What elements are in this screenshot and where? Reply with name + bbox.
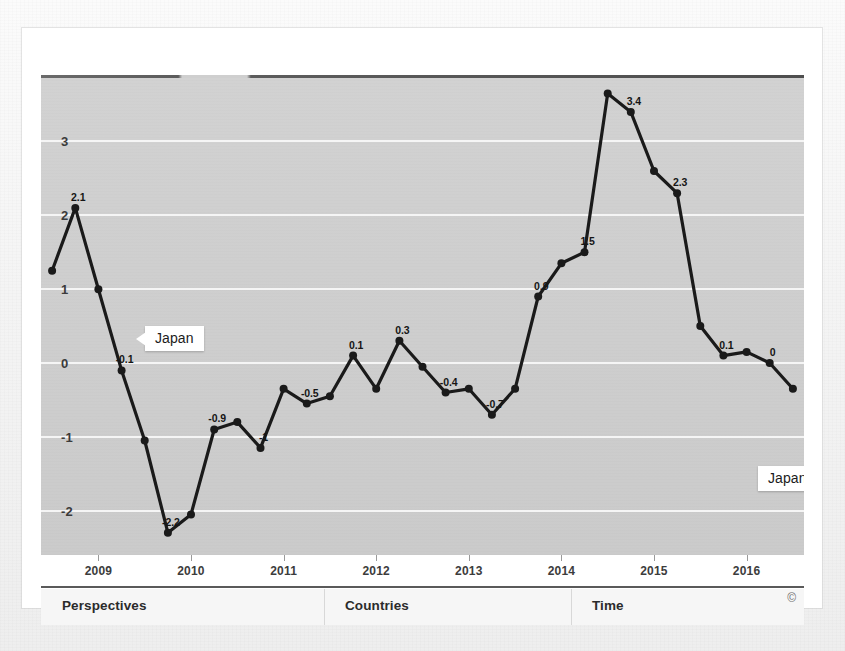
- bottom-toolbar[interactable]: Perspectives Countries Time ©: [41, 589, 804, 625]
- x-tick: [747, 555, 748, 561]
- chart-plot-area[interactable]: 2.1-0.1-2.2-0.9-1-0.50.10.3-0.4-0.70.91.…: [41, 75, 804, 555]
- data-point[interactable]: [257, 444, 265, 452]
- data-point[interactable]: [349, 352, 357, 360]
- x-tick-label: 2014: [548, 564, 576, 578]
- x-tick-label: 2010: [177, 564, 205, 578]
- series-callout-2[interactable]: Japan: [758, 466, 804, 491]
- data-point-label: 0.3: [395, 324, 409, 336]
- data-point[interactable]: [164, 529, 172, 537]
- x-axis-rule: [41, 586, 804, 588]
- x-tick-label: 2009: [85, 564, 113, 578]
- plot-top-rule: [41, 75, 804, 78]
- data-point[interactable]: [94, 285, 102, 293]
- x-tick-label: 2012: [362, 564, 390, 578]
- x-tick: [191, 555, 192, 561]
- data-point[interactable]: [395, 337, 403, 345]
- toolbar-divider-1: [324, 589, 325, 625]
- data-point-label: -2.2: [162, 516, 180, 528]
- data-point-label: 0.1: [719, 339, 733, 351]
- figure-card: 2.1-0.1-2.2-0.9-1-0.50.10.3-0.4-0.70.91.…: [22, 28, 822, 608]
- data-point-label: 1.5: [580, 235, 594, 247]
- x-axis: 20092010201120122013201420152016: [41, 555, 804, 587]
- x-tick-label: 2016: [733, 564, 761, 578]
- toolbar-divider-2: [571, 589, 572, 625]
- data-point[interactable]: [442, 389, 450, 397]
- data-point[interactable]: [534, 293, 542, 301]
- series-polyline: [52, 94, 793, 533]
- data-point[interactable]: [511, 385, 519, 393]
- data-point-label: -0.1: [116, 353, 134, 365]
- y-tick-label: -1: [61, 429, 73, 444]
- data-point[interactable]: [743, 348, 751, 356]
- x-tick: [654, 555, 655, 561]
- data-point[interactable]: [118, 366, 126, 374]
- y-tick-label: 1: [61, 282, 68, 297]
- data-point[interactable]: [719, 352, 727, 360]
- data-point[interactable]: [465, 385, 473, 393]
- data-point[interactable]: [141, 437, 149, 445]
- data-point[interactable]: [419, 363, 427, 371]
- y-tick-label: 0: [61, 356, 68, 371]
- data-point[interactable]: [696, 322, 704, 330]
- data-point-label: -1: [259, 431, 268, 443]
- data-point-label: 0.1: [349, 339, 363, 351]
- data-point[interactable]: [604, 90, 612, 98]
- data-point[interactable]: [280, 385, 288, 393]
- data-point-label: -0.7: [486, 398, 504, 410]
- callout-label: Japan: [155, 330, 194, 346]
- data-point-label: -0.9: [208, 412, 226, 424]
- data-point[interactable]: [766, 359, 774, 367]
- y-tick-label: 2: [61, 208, 68, 223]
- data-point[interactable]: [627, 108, 635, 116]
- series-callout-1[interactable]: Japan: [145, 326, 204, 351]
- toolbar-item-perspectives[interactable]: Perspectives: [62, 598, 147, 613]
- x-tick: [376, 555, 377, 561]
- data-point-label: 2.1: [71, 191, 85, 203]
- data-point[interactable]: [581, 248, 589, 256]
- data-point-label: -0.5: [301, 387, 319, 399]
- data-point-label: 3.4: [627, 95, 641, 107]
- callout-label: Japan: [768, 470, 804, 486]
- x-tick: [284, 555, 285, 561]
- line-series-layer: [41, 75, 804, 555]
- data-point-label: 0: [770, 346, 776, 358]
- x-tick-label: 2015: [640, 564, 668, 578]
- x-tick-label: 2011: [270, 564, 297, 578]
- toolbar-item-time[interactable]: Time: [592, 598, 624, 613]
- data-point[interactable]: [789, 385, 797, 393]
- data-point-label: -0.4: [440, 376, 458, 388]
- copyright-icon: ©: [787, 591, 796, 605]
- data-point[interactable]: [326, 392, 334, 400]
- data-point[interactable]: [673, 189, 681, 197]
- data-point[interactable]: [233, 418, 241, 426]
- x-tick-label: 2013: [455, 564, 483, 578]
- x-tick: [98, 555, 99, 561]
- data-point[interactable]: [303, 400, 311, 408]
- x-tick: [561, 555, 562, 561]
- data-point[interactable]: [210, 426, 218, 434]
- data-point[interactable]: [488, 411, 496, 419]
- page-background: 2.1-0.1-2.2-0.9-1-0.50.10.3-0.4-0.70.91.…: [0, 0, 845, 651]
- data-point-label: 2.3: [673, 176, 687, 188]
- data-point[interactable]: [650, 167, 658, 175]
- data-point[interactable]: [187, 510, 195, 518]
- data-point[interactable]: [557, 259, 565, 267]
- y-tick-label: -2: [61, 503, 73, 518]
- data-point[interactable]: [372, 385, 380, 393]
- data-point[interactable]: [48, 267, 56, 275]
- series-markers: [48, 90, 797, 537]
- data-point-label: 0.9: [534, 280, 548, 292]
- x-tick: [469, 555, 470, 561]
- toolbar-item-countries[interactable]: Countries: [345, 598, 409, 613]
- y-tick-label: 3: [61, 134, 68, 149]
- data-point[interactable]: [71, 204, 79, 212]
